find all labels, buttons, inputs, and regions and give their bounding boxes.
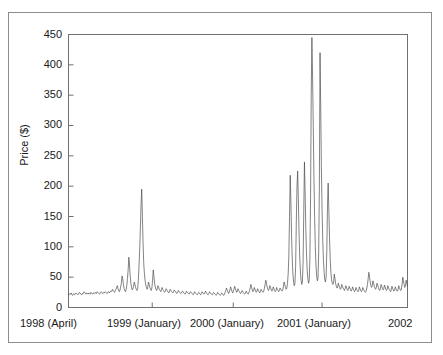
axes-group [69, 35, 408, 308]
price-time-series-plot [0, 0, 443, 355]
figure-container: Price ($) 0 50 100 150 200 250 300 350 4… [0, 0, 443, 355]
plot-region: Price ($) 0 50 100 150 200 250 300 350 4… [0, 0, 443, 355]
series-group [69, 38, 408, 296]
